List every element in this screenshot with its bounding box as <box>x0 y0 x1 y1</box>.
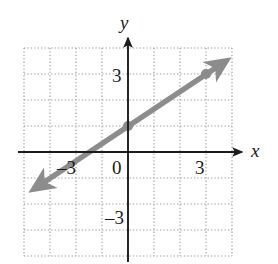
y-axis-label: y <box>120 13 128 32</box>
x-axis-label: x <box>251 141 259 160</box>
coordinate-plane-figure: x y –3 3 0 3 –3 <box>0 0 278 264</box>
y-tick-label-negative-three: –3 <box>105 208 124 227</box>
y-tick-label-positive-three: 3 <box>112 66 122 85</box>
graph-canvas <box>0 0 278 264</box>
origin-label: 0 <box>112 158 122 177</box>
x-tick-label-positive-three: 3 <box>195 158 205 177</box>
point-three-three <box>201 69 211 79</box>
x-tick-label-negative-three: –3 <box>57 158 76 177</box>
